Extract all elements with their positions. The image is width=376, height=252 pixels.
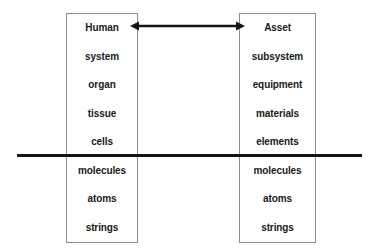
level-label-human-0: Human	[85, 23, 118, 33]
level-row: strings	[240, 214, 315, 243]
level-label-human-6: atoms	[88, 194, 117, 204]
double-headed-arrow-icon	[130, 17, 245, 35]
level-row: elements	[240, 128, 315, 157]
level-label-human-1: system	[85, 52, 119, 62]
level-row: Human	[67, 14, 137, 43]
level-row: subsystem	[240, 43, 315, 72]
level-label-asset-0: Asset	[264, 23, 291, 33]
level-label-human-5: molecules	[78, 166, 126, 176]
level-row: molecules	[67, 157, 137, 186]
level-row: organ	[67, 71, 137, 100]
level-label-asset-4: elements	[256, 137, 299, 147]
level-label-human-4: cells	[91, 137, 113, 147]
level-row: tissue	[67, 100, 137, 129]
level-label-human-3: tissue	[88, 109, 116, 119]
level-row: atoms	[67, 185, 137, 214]
level-label-asset-6: atoms	[263, 194, 292, 204]
hierarchy-comparison-diagram: Human system organ tissue cells molecule…	[0, 0, 376, 252]
column-asset: Asset subsystem equipment materials elem…	[239, 13, 316, 243]
level-row: molecules	[240, 157, 315, 186]
column-human: Human system organ tissue cells molecule…	[66, 13, 138, 243]
level-label-asset-3: materials	[256, 109, 299, 119]
level-row: equipment	[240, 71, 315, 100]
level-row: system	[67, 43, 137, 72]
level-label-asset-5: molecules	[253, 166, 301, 176]
level-label-human-2: organ	[88, 80, 115, 90]
level-row: strings	[67, 214, 137, 243]
level-label-human-7: strings	[86, 223, 119, 233]
horizontal-boundary-line	[17, 154, 362, 157]
level-row: atoms	[240, 185, 315, 214]
level-label-asset-1: subsystem	[252, 52, 303, 62]
level-label-asset-2: equipment	[253, 80, 303, 90]
level-row: materials	[240, 100, 315, 129]
level-label-asset-7: strings	[261, 223, 294, 233]
level-row: cells	[67, 128, 137, 157]
level-row: Asset	[240, 14, 315, 43]
